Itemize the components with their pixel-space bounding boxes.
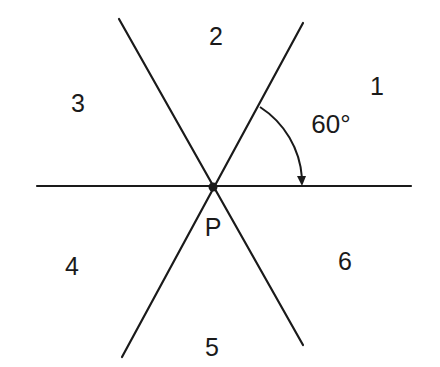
region-label-2: 2	[209, 22, 223, 50]
region-label-6: 6	[338, 247, 352, 275]
region-label-3: 3	[71, 89, 85, 117]
region-label-1: 1	[370, 72, 384, 100]
region-label-4: 4	[65, 252, 79, 280]
intersecting-lines-diagram: P 60° 1 2 3 4 5 6	[0, 0, 440, 367]
center-point-dot	[209, 183, 218, 192]
region-label-5: 5	[205, 333, 219, 361]
angle-arc	[260, 107, 302, 178]
arrowhead-icon	[297, 176, 306, 186]
point-label-p: P	[205, 213, 222, 241]
angle-label: 60°	[311, 109, 350, 139]
line-120deg	[119, 19, 303, 345]
